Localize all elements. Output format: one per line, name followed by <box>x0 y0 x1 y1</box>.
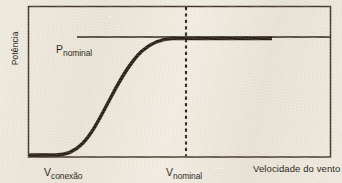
plot-frame <box>29 7 331 158</box>
x-axis-title: Velocidade do vento <box>253 164 340 174</box>
y-axis-title: Potência <box>11 20 20 76</box>
p-nominal-label: Pnominal <box>56 40 92 57</box>
v-nominal-label: Vnominal <box>166 163 202 180</box>
v-nominal-subscript: nominal <box>173 171 202 181</box>
v-conexao-symbol: V <box>44 166 51 178</box>
p-nominal-symbol: P <box>56 43 63 55</box>
v-conexao-subscript: conexão <box>51 171 82 181</box>
v-conexao-label: Vconexão <box>44 163 82 180</box>
wind-power-curve-figure: Potência Pnominal Vconexão Vnominal Velo… <box>0 0 342 183</box>
power-curve-plot <box>0 0 342 183</box>
v-nominal-symbol: V <box>166 166 173 178</box>
p-nominal-subscript: nominal <box>63 48 92 58</box>
